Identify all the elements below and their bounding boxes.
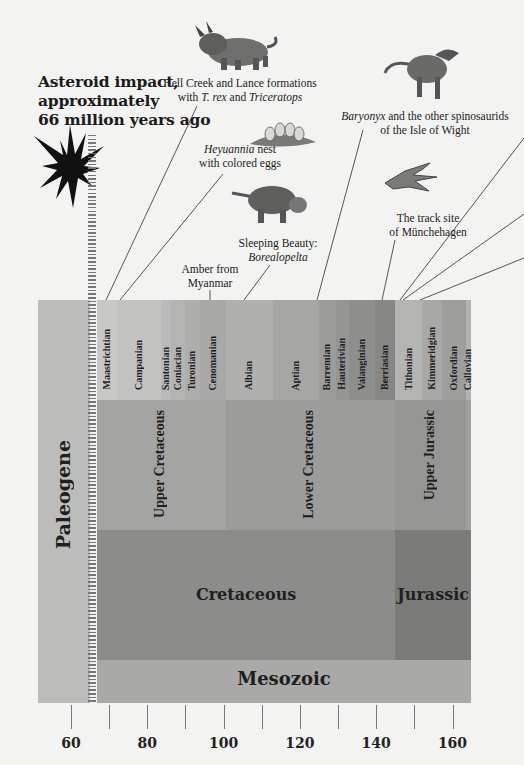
stage-band: Cenomanian [200,300,225,400]
axis-tick [185,705,186,729]
annotation-text: of the Isle of Wight [330,123,520,137]
axis-tick [300,705,301,729]
axis-tick [71,705,72,729]
era-band-mesozoic: Mesozoic [97,660,471,703]
stage-label: Coniacian [172,347,183,390]
stage-band: Campanian [117,300,161,400]
annotation-text: Sleeping Beauty: [228,236,328,250]
stage-band: Barremian [319,300,336,400]
stage-band: Santonian [161,300,171,400]
axis-tick [453,705,454,729]
stage-label: Cenomanian [207,336,218,390]
annotation-text: The track site [378,211,478,225]
axis-tick [147,705,148,729]
stage-band: Valanginian [349,300,375,400]
stage-label: Tithonian [403,348,414,390]
stage-label: Campanian [133,340,144,390]
annotation-track-site: The track site of Münchehagen [378,211,478,239]
axis-tick-label: 80 [127,735,167,751]
epoch-label: Lower Cretaceous [301,410,317,519]
annotation-text: Heyuannia nest [185,142,295,156]
stage-label: Callovian [462,349,473,390]
axis-tick-label: 140 [356,735,396,751]
epoch-band: Upper Cretaceous [97,400,226,530]
stage-band: Kimmeridgian [422,300,442,400]
stage-label: Hauterivian [336,338,347,390]
axis-tick-label: 100 [204,735,244,751]
period-band: Cretaceous [97,530,395,660]
period-label: Cretaceous [97,585,395,604]
baryonyx-icon [385,49,459,99]
period-label: Jurassic [395,585,471,604]
stage-band: Aptian [273,300,319,400]
annotation-amber: Amber from Myanmar [175,262,245,290]
stage-label: Turonian [186,351,197,390]
annotation-text: of Münchehagen [378,225,478,239]
annotation-hell-creek: Hell Creek and Lance formations with T. … [150,76,330,104]
stage-band: Tithonian [395,300,422,400]
annotation-text: Myanmar [175,276,245,290]
axis-tick [109,705,110,729]
axis-tick-label: 160 [433,735,473,751]
axis-tick-label: 120 [280,735,320,751]
paleogene-label: Paleogene [52,440,74,549]
axis-tick [262,705,263,729]
leader-offscreen-3 [420,258,524,300]
stage-band: Maastrichtian [97,300,117,400]
stage-band: Turonian [185,300,201,400]
paleogene-band: Paleogene [38,300,90,703]
epoch-band [466,400,471,530]
annotation-text: Hell Creek and Lance formations [150,76,330,90]
epoch-band: Lower Cretaceous [226,400,396,530]
era-label: Mesozoic [97,668,471,689]
stage-label: Santonian [160,347,171,390]
stage-band: Albian [226,300,274,400]
annotation-baryonyx: Baryonyx and the other spinosaurids of t… [330,109,520,137]
stage-label: Barremian [321,344,332,390]
stage-label: Oxfordian [448,346,459,390]
axis-tick [376,705,377,729]
stage-band: Coniacian [171,300,184,400]
dinosaur-footprint-icon [385,163,437,191]
leader-baryonyx [317,130,363,300]
axis-tick [224,705,225,729]
annotation-heyuannia: Heyuannia nest with colored eggs [185,142,295,170]
axis-tick [338,705,339,729]
annotation-text: Baryonyx and the other spinosaurids [330,109,520,123]
triceratops-icon [195,21,276,70]
leader-borealopelta [244,265,270,300]
stage-band: Berriasian [375,300,395,400]
borealopelta-icon [232,186,307,223]
epoch-label: Upper Jurassic [422,410,438,500]
impact-boundary-ruler [88,135,96,703]
stage-label: Valanginian [356,339,367,390]
epoch-label: Upper Cretaceous [152,410,168,518]
epoch-band: Upper Jurassic [395,400,466,530]
stage-label: Maastrichtian [101,329,112,390]
annotation-text: with colored eggs [185,156,295,170]
stage-band: Callovian [466,300,471,400]
stage-label: Kimmeridgian [426,327,437,390]
axis-tick [414,705,415,729]
leader-track-site [382,240,395,300]
annotation-sleeping-beauty: Sleeping Beauty: Borealopelta [228,236,328,264]
period-band: Jurassic [395,530,471,660]
annotation-text: with T. rex and Triceratops [150,90,330,104]
stage-label: Aptian [290,361,301,390]
stage-label: Albian [243,361,254,390]
stage-label: Berriasian [379,345,390,390]
annotation-text: Amber from [175,262,245,276]
stage-band: Hauterivian [336,300,349,400]
axis-tick-label: 60 [51,735,91,751]
